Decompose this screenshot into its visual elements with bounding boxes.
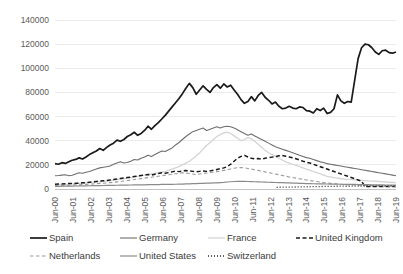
series-line-france (55, 132, 396, 185)
series-line-spain (55, 44, 396, 164)
legend-label-spain[interactable]: Spain (49, 232, 73, 243)
chart-canvas: 020000400006000080000100000120000140000 … (0, 0, 403, 274)
legend-label-netherlands[interactable]: Netherlands (49, 250, 100, 261)
x-axis-tick-label: Jun-06 (158, 197, 168, 223)
x-axis-tick-label: Jun-09 (212, 197, 222, 223)
x-axis-tick-label: Jun-08 (194, 197, 204, 223)
y-axis-tick-label: 60000 (25, 112, 49, 122)
y-axis-tick-labels: 020000400006000080000100000120000140000 (21, 15, 50, 194)
series-line-united-states (55, 181, 396, 186)
gridlines (55, 20, 396, 189)
series-line-netherlands (55, 168, 396, 187)
x-axis-tick-label: Jun-18 (373, 197, 383, 223)
legend-label-france[interactable]: France (227, 232, 257, 243)
chart-legend: SpainGermanyFranceUnited KingdomNetherla… (30, 232, 383, 261)
x-axis-tick-label: Jun-07 (176, 197, 186, 223)
x-axis-tick-label: Jun-14 (301, 197, 311, 223)
data-series-group (55, 44, 396, 187)
y-axis-tick-label: 120000 (21, 39, 50, 49)
x-axis-tick-label: Jun-15 (319, 197, 329, 223)
x-axis-tick-label: Jun-17 (355, 197, 365, 223)
x-axis-tick-label: Jun-16 (337, 197, 347, 223)
x-axis-tick-label: Jun-02 (86, 197, 96, 223)
y-axis-tick-label: 40000 (25, 136, 49, 146)
y-axis-tick-label: 80000 (25, 87, 49, 97)
x-axis-tick-label: Jun-12 (266, 197, 276, 223)
y-axis-tick-label: 140000 (21, 15, 50, 25)
y-axis-tick-label: 0 (44, 184, 49, 194)
x-axis-tick-label: Jun-10 (230, 197, 240, 223)
series-line-germany (55, 126, 396, 175)
x-axis-tick-label: Jun-00 (50, 197, 60, 223)
x-axis-tick-label: Jun-04 (122, 197, 132, 223)
line-chart: 020000400006000080000100000120000140000 … (0, 0, 403, 274)
y-axis-tick-label: 20000 (25, 160, 49, 170)
legend-label-united-kingdom[interactable]: United Kingdom (315, 232, 383, 243)
legend-label-switzerland[interactable]: Switzerland (227, 250, 276, 261)
x-axis-tick-label: Jun-19 (391, 197, 401, 223)
x-axis-tick-label: Jun-11 (248, 197, 258, 223)
legend-label-germany[interactable]: Germany (139, 232, 178, 243)
x-axis-tick-labels: Jun-00Jun-01Jun-02Jun-03Jun-04Jun-05Jun-… (50, 197, 401, 223)
x-axis-tick-label: Jun-05 (140, 197, 150, 223)
x-axis-tick-label: Jun-03 (104, 197, 114, 223)
y-axis-tick-label: 100000 (21, 63, 50, 73)
x-axis-tick-label: Jun-01 (68, 197, 78, 223)
x-axis-tick-label: Jun-13 (284, 197, 294, 223)
legend-label-united-states[interactable]: United States (139, 250, 196, 261)
